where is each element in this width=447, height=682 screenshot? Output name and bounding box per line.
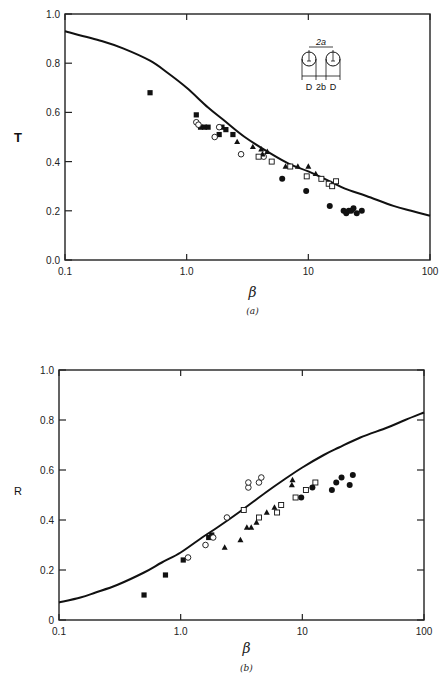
data-point [163, 572, 168, 577]
data-point [289, 482, 295, 487]
data-point [234, 139, 240, 144]
data-point [238, 151, 244, 157]
x-tick-label: 10 [297, 626, 309, 637]
series-open-square [241, 480, 318, 520]
y-tick-label: 0.8 [46, 58, 60, 69]
data-point [246, 480, 252, 486]
inset-label-2a: 2a [315, 37, 326, 47]
plot-frame [59, 370, 424, 620]
data-point [288, 164, 293, 169]
y-tick-label: 0.2 [46, 206, 60, 217]
y-tick-label: 0.0 [46, 255, 60, 266]
panel-tag: (b) [240, 663, 253, 673]
data-point [334, 179, 339, 184]
geometry-inset-diagram: 2aD2bD [302, 37, 340, 92]
inset-label-D: D [306, 82, 313, 92]
data-point [248, 524, 254, 529]
data-point [216, 124, 222, 130]
data-point [224, 515, 230, 521]
data-point [303, 188, 309, 194]
figure: 0.00.20.40.60.81.00.11.010100Tβ(a)2aD2bD… [0, 0, 447, 682]
data-point [223, 127, 228, 132]
inset-label-D: D [330, 82, 337, 92]
x-tick-label: 0.1 [58, 266, 72, 277]
series-open-square [256, 154, 338, 189]
x-axis-label: β [247, 284, 256, 300]
data-point [264, 509, 270, 514]
data-point [271, 504, 277, 509]
y-tick-label: 1.0 [40, 365, 54, 376]
data-point [329, 487, 335, 493]
data-point [279, 503, 284, 508]
data-point [333, 480, 339, 486]
theory-curve [65, 31, 430, 216]
data-point [319, 176, 324, 181]
x-tick-label: 0.1 [52, 626, 66, 637]
series-filled-triangle [222, 477, 296, 550]
inset-label-2b: 2b [316, 82, 326, 92]
y-tick-label: 0.6 [46, 107, 60, 118]
y-tick-label: 0.4 [40, 515, 54, 526]
data-point [305, 163, 311, 168]
data-point [230, 132, 235, 137]
data-point [350, 205, 356, 211]
series-filled-circle [279, 176, 365, 216]
data-point [237, 537, 243, 542]
data-point [309, 485, 315, 491]
data-point [196, 122, 202, 128]
data-point [298, 495, 304, 501]
data-point [205, 125, 210, 130]
y-tick-label: 1.0 [46, 9, 60, 20]
data-point [339, 475, 345, 481]
data-point [212, 134, 218, 140]
data-point [289, 477, 295, 482]
y-tick-label: 0.4 [46, 157, 60, 168]
x-tick-label: 1.0 [174, 626, 188, 637]
series-filled-circle [298, 472, 356, 501]
x-tick-label: 100 [416, 626, 433, 637]
y-axis-label: R [14, 485, 22, 497]
data-point [350, 472, 356, 478]
x-tick-label: 10 [303, 266, 315, 277]
data-point [304, 174, 309, 179]
data-point [241, 508, 246, 513]
data-point [141, 592, 146, 597]
x-axis-label: β [241, 640, 250, 656]
y-tick-label: 0 [48, 615, 54, 626]
data-point [256, 154, 261, 159]
data-point [330, 184, 335, 189]
data-point [269, 159, 274, 164]
y-tick-label: 0.2 [40, 565, 54, 576]
x-tick-label: 100 [422, 266, 439, 277]
data-point [327, 203, 333, 209]
data-point [256, 515, 261, 520]
data-point [279, 176, 285, 182]
data-point [203, 542, 209, 548]
data-point [303, 488, 308, 493]
data-point [347, 482, 353, 488]
panel-tag: (a) [246, 306, 259, 316]
chart-panel-b: 00.20.40.60.81.00.11.010100Rβ(b) [14, 365, 433, 673]
data-point [210, 535, 216, 541]
data-point [259, 475, 265, 481]
y-tick-label: 0.8 [40, 415, 54, 426]
series-filled-square [147, 90, 235, 137]
series-filled-square [141, 532, 214, 597]
data-point [222, 544, 228, 549]
plot-frame [65, 14, 430, 260]
y-axis-label: T [14, 130, 22, 145]
x-tick-label: 1.0 [180, 266, 194, 277]
data-point [185, 555, 191, 561]
data-point [293, 495, 298, 500]
data-point [194, 112, 199, 117]
data-point [147, 90, 152, 95]
data-point [313, 480, 318, 485]
y-tick-label: 0.6 [40, 465, 54, 476]
data-point [275, 510, 280, 515]
chart-panel-a: 0.00.20.40.60.81.00.11.010100Tβ(a)2aD2bD [14, 9, 439, 316]
data-point [359, 208, 365, 214]
